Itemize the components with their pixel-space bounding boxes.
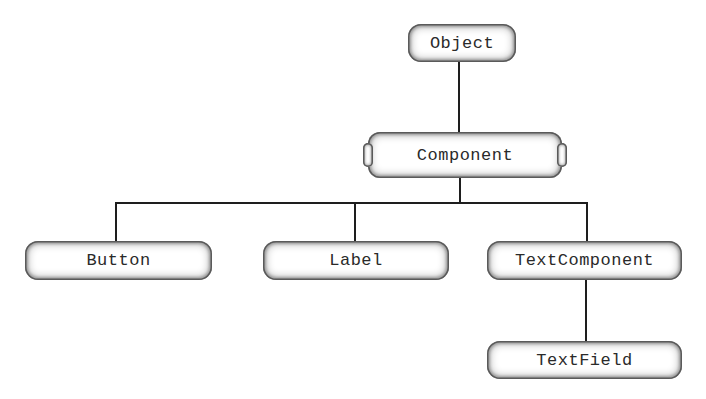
edge-component-label [354, 202, 356, 241]
node-component-left-notch [363, 143, 373, 167]
edge-textcomponent-textfield [585, 280, 587, 341]
node-button-label: Button [86, 251, 150, 270]
class-hierarchy-diagram: Object Component Button Label TextCompon… [0, 0, 706, 399]
node-textfield-label: TextField [536, 351, 632, 370]
node-textcomponent-label: TextComponent [515, 251, 654, 270]
node-label: Label [263, 241, 449, 280]
node-button: Button [25, 241, 212, 280]
node-component: Component [368, 132, 562, 178]
node-component-right-notch [557, 143, 567, 167]
edge-component-button [115, 202, 117, 241]
edge-object-component [458, 62, 460, 132]
node-textfield: TextField [487, 341, 682, 379]
node-label-label: Label [329, 251, 383, 270]
node-object-label: Object [430, 34, 494, 53]
edge-component-stem [459, 178, 461, 203]
node-object: Object [408, 24, 516, 62]
node-component-label: Component [417, 146, 513, 165]
edge-component-textcomponent [586, 202, 588, 241]
node-textcomponent: TextComponent [487, 241, 682, 280]
edge-horizontal-bus [115, 202, 587, 204]
